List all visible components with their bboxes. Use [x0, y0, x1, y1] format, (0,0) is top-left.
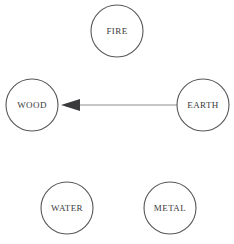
- node-water-label: WATER: [51, 203, 83, 213]
- arrowhead-icon: [61, 99, 80, 111]
- node-earth[interactable]: EARTH: [177, 79, 229, 131]
- node-water[interactable]: WATER: [41, 182, 93, 234]
- diagram-svg: FIRE WOOD EARTH WATER METAL: [0, 0, 234, 244]
- node-fire[interactable]: FIRE: [91, 5, 143, 57]
- node-metal[interactable]: METAL: [144, 182, 196, 234]
- diagram-canvas: FIRE WOOD EARTH WATER METAL: [0, 0, 234, 244]
- node-fire-label: FIRE: [106, 26, 127, 36]
- node-wood-label: WOOD: [17, 100, 47, 110]
- edge-earth-to-wood[interactable]: [61, 99, 177, 111]
- node-wood[interactable]: WOOD: [6, 79, 58, 131]
- node-metal-label: METAL: [154, 203, 186, 213]
- node-earth-label: EARTH: [187, 100, 219, 110]
